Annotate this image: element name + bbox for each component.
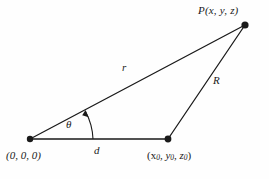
label-angle-theta: θ	[66, 119, 71, 130]
label-source-point-mid-y: , y	[160, 149, 170, 161]
vertex-dot-source-point	[165, 136, 172, 143]
label-source-point-mid-z: , z	[174, 149, 184, 161]
vertex-dot-origin	[27, 136, 33, 142]
label-origin-point: (0, 0, 0)	[6, 150, 41, 161]
label-source-point-close: )	[188, 149, 192, 161]
segment-R-line	[168, 25, 245, 139]
label-segment-r: r	[122, 62, 126, 73]
geometry-figure: P(x, y, z) r R θ d (0, 0, 0) (x0, y0, z0…	[0, 0, 269, 179]
label-source-point: (x0, y0, z0)	[147, 150, 191, 162]
label-source-point-open: (x	[147, 149, 156, 161]
label-point-p: P(x, y, z)	[198, 5, 238, 16]
vertex-dot-field-point	[241, 21, 248, 28]
label-segment-R: R	[213, 75, 220, 86]
label-segment-d: d	[94, 145, 100, 156]
